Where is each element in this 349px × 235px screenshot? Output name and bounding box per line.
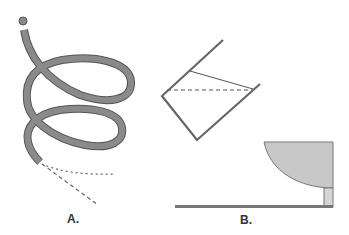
base-line <box>175 205 333 208</box>
panel-b-bowl <box>175 142 333 208</box>
dotted-trajectory <box>42 164 114 174</box>
diagram-canvas <box>0 0 349 235</box>
panel-b-beaker <box>162 40 260 140</box>
bowl <box>264 142 333 188</box>
ball-icon <box>19 17 27 25</box>
panel-a-coil <box>19 17 131 205</box>
liquid-surface-line <box>190 71 253 89</box>
panel-a-label: A. <box>67 212 79 226</box>
dashed-trajectory <box>42 164 98 205</box>
bowl-stem <box>324 188 333 207</box>
panel-b-label: B. <box>240 213 252 227</box>
